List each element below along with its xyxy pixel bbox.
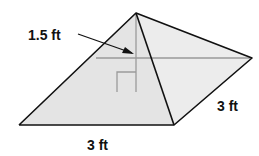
side-length-label: 3 ft	[217, 98, 238, 114]
pyramid-diagram: 1.5 ft 3 ft 3 ft	[0, 0, 259, 156]
height-label: 1.5 ft	[28, 27, 61, 43]
front-length-label: 3 ft	[87, 137, 108, 153]
